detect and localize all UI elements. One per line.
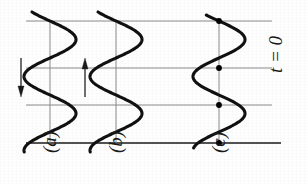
wave-diagram-canvas <box>0 0 308 184</box>
motion-arrows <box>18 58 88 97</box>
down-arrow-head <box>18 86 24 97</box>
panel-label-b: (b) <box>105 131 127 153</box>
wave-point-marker <box>216 65 222 71</box>
wave-point-marker <box>216 18 222 24</box>
time-annotation-label: t = 0 <box>265 36 287 73</box>
wave-point-marker <box>216 102 222 108</box>
wave-diagram-figure: (a) (b) (c) t = 0 <box>0 0 308 184</box>
panel-label-c: (c) <box>208 132 230 153</box>
up-arrow-head <box>82 58 88 69</box>
panel-label-a: (a) <box>39 131 61 153</box>
